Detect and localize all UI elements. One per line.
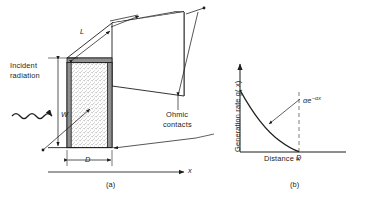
plot-y-axis-label: Generation rate g( x) xyxy=(233,81,242,152)
plot-D-marker-label: D xyxy=(296,153,302,162)
panel-a-x-axis-label: x xyxy=(188,166,192,175)
incident-radiation-arrow xyxy=(12,114,52,119)
left-ohmic-contact-strip xyxy=(67,63,71,148)
dimension-W-label: W xyxy=(61,110,68,119)
panel-a-caption: (a) xyxy=(106,180,115,189)
panel-b-plot xyxy=(240,64,346,152)
ohmic-contacts-label-line1: Ohmic xyxy=(166,110,188,119)
dimension-D-label: D xyxy=(85,155,91,164)
decay-annotation-exponent: −αx xyxy=(312,95,321,101)
dimension-L-label: L xyxy=(80,27,84,36)
semiconductor-front-face xyxy=(67,63,112,148)
right-ohmic-contact-strip xyxy=(107,63,112,148)
panel-b-caption: (b) xyxy=(290,180,299,189)
decay-curve xyxy=(240,90,299,152)
annotation-leader xyxy=(269,99,300,124)
plot-x-axis-label: Distance x xyxy=(264,154,300,163)
panel-a-slab xyxy=(12,8,214,172)
decay-annotation-base: αe xyxy=(303,96,312,105)
decay-annotation: αe−αx xyxy=(303,94,321,106)
slab-right-face xyxy=(112,12,184,96)
incident-radiation-label-line2: radiation xyxy=(10,71,40,80)
incident-radiation-label-line1: Incident xyxy=(10,61,37,70)
ohmic-contacts-label-line2: contacts xyxy=(163,120,192,129)
